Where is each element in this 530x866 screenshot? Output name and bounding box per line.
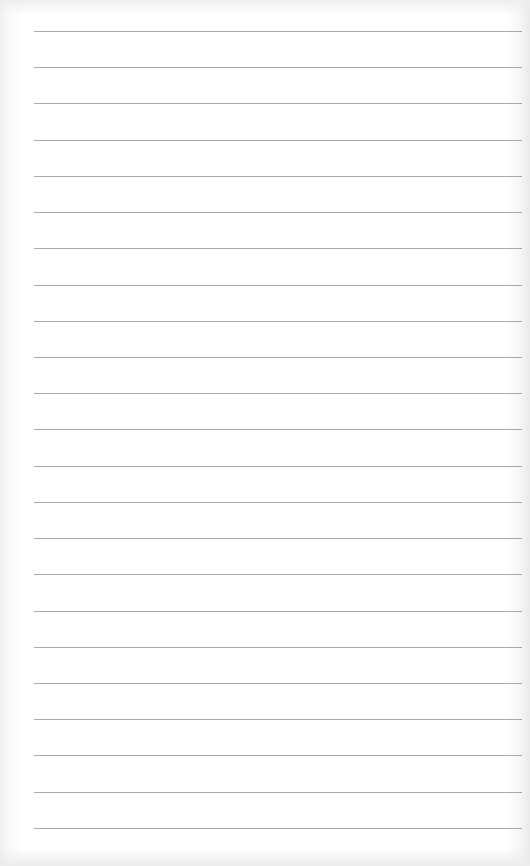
ruled-line	[34, 176, 522, 177]
ruled-line	[34, 647, 522, 648]
ruled-line	[34, 828, 522, 829]
ruled-line	[34, 357, 522, 358]
ruled-line	[34, 502, 522, 503]
ruled-line	[34, 31, 522, 32]
ruled-line	[34, 393, 522, 394]
lined-paper-sheet	[0, 0, 530, 866]
ruled-line	[34, 429, 522, 430]
ruled-line	[34, 212, 522, 213]
ruled-line	[34, 248, 522, 249]
ruled-line	[34, 285, 522, 286]
ruled-line	[34, 755, 522, 756]
ruled-line	[34, 538, 522, 539]
ruled-line	[34, 719, 522, 720]
ruled-line	[34, 792, 522, 793]
ruled-line	[34, 574, 522, 575]
ruled-line	[34, 140, 522, 141]
ruled-line	[34, 321, 522, 322]
ruled-line	[34, 466, 522, 467]
ruled-line	[34, 67, 522, 68]
ruled-line	[34, 103, 522, 104]
ruled-line	[34, 611, 522, 612]
ruled-line	[34, 683, 522, 684]
